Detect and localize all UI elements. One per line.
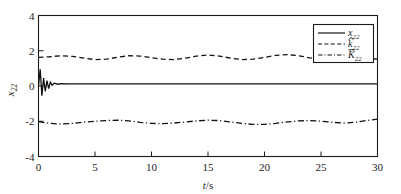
line-chart: 420-2-4 051015202530 t/s x22 x22k22K22 xyxy=(0,0,401,194)
svg-text:x22: x22 xyxy=(4,84,19,98)
y-tick-label: 2 xyxy=(29,45,35,57)
x-tick-label: 5 xyxy=(92,161,98,173)
y-tick-label: -2 xyxy=(25,115,34,127)
x-tick-label: 20 xyxy=(259,161,271,173)
legend-box xyxy=(314,25,374,63)
chart-figure: 420-2-4 051015202530 t/s x22 x22k22K22 xyxy=(0,0,401,194)
series-layer xyxy=(39,55,378,125)
x-tick-label: 30 xyxy=(372,161,384,173)
y-tick-label: -4 xyxy=(25,151,35,163)
y-tick-label: 0 xyxy=(29,80,35,92)
y-axis-title: x22 xyxy=(4,84,19,98)
svg-text:t/s: t/s xyxy=(203,179,213,191)
series-line-x22 xyxy=(39,69,378,95)
x-tick-label: 15 xyxy=(203,161,215,173)
x-tick-label: 0 xyxy=(36,161,42,173)
series-line-Kbar22 xyxy=(39,119,378,124)
x-tick-label: 25 xyxy=(316,161,328,173)
x-axis-title: t/s xyxy=(203,179,213,191)
x-tick-label: 10 xyxy=(146,161,158,173)
x-axis-ticks: 051015202530 xyxy=(36,152,384,173)
chart-legend: x22k22K22 xyxy=(314,25,374,64)
y-tick-label: 4 xyxy=(29,10,35,22)
